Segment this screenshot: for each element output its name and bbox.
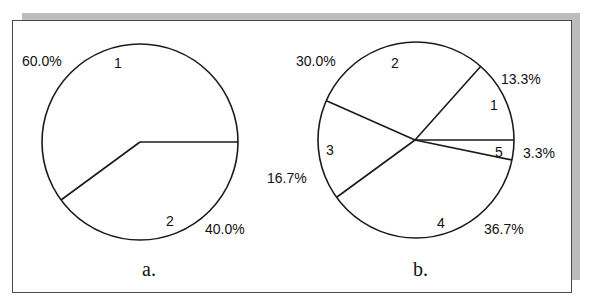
pie-chart-a [42,44,238,240]
pie-b-divider-216 [337,140,415,197]
pie-a-panel-label: a. [142,258,156,280]
pie-b-divider-48 [415,66,481,140]
pie-b-divider-156 [327,101,415,140]
pie-b-panel-label: b. [413,258,428,280]
pie-b-slice4-label: 4 [437,215,445,231]
pie-a-slice1-pct: 60.0% [22,53,62,69]
pie-a-slice1-label: 1 [114,55,122,71]
pie-b-slice2-pct: 30.0% [296,53,336,69]
pie-b-labels: 30.0% 2 13.3% 1 5 3.3% 3 16.7% 4 36.7% [267,53,555,237]
pie-b-slice5-pct: 3.3% [523,145,555,161]
pie-b-slice3-pct: 16.7% [267,170,307,186]
pie-b-slice3-label: 3 [326,142,334,158]
pie-b-slice1-label: 1 [490,97,498,113]
pie-b-slice2-label: 2 [391,55,399,71]
pie-chart-b [318,42,514,238]
pie-b-slice1-pct: 13.3% [501,71,541,87]
pie-a-slice2-pct: 40.0% [205,221,245,237]
pie-b-slice5-label: 5 [495,144,503,160]
pie-b-slice4-pct: 36.7% [484,221,524,237]
pie-a-slice2-label: 2 [166,213,174,229]
pie-a-divider-216 [61,142,140,200]
pie-charts-figure: 60.0% 1 2 40.0% a. 30.0% 2 13.3% 1 5 3.3… [0,0,589,302]
